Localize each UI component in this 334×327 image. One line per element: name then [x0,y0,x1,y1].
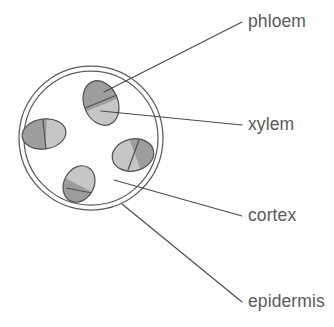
label-cortex: cortex [248,205,296,225]
phloem-leader-line [104,22,242,92]
epidermis-leader-line [122,204,242,302]
plant-cross-section-diagram: phloem xylem cortex epidermis [0,0,334,327]
cortex-leader-line [114,180,242,216]
label-epidermis: epidermis [248,291,325,311]
labels-group: phloem xylem cortex epidermis [248,11,325,311]
diagram-canvas: phloem xylem cortex epidermis [0,0,334,327]
label-phloem: phloem [248,11,306,31]
label-xylem: xylem [248,114,294,134]
